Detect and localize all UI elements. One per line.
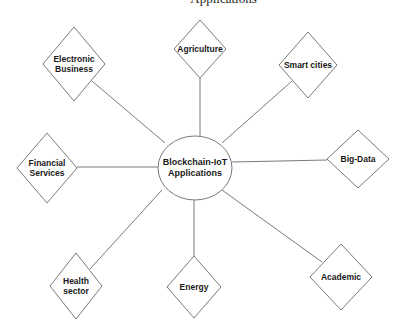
connector-smart-cities xyxy=(222,81,292,143)
node-label-financial-services: Financial Services xyxy=(29,158,66,178)
center-label: Blockchain-IoT Applications xyxy=(163,157,228,179)
connector-academic xyxy=(222,190,322,262)
node-label-energy: Energy xyxy=(180,282,209,292)
node-label-academic: Academic xyxy=(321,272,361,282)
node-label-health-sector: Health sector xyxy=(63,276,89,296)
node-label-big-data: Big-Data xyxy=(341,154,376,164)
connector-health-sector xyxy=(90,190,162,269)
node-label-electronic-business: Electronic Business xyxy=(53,54,94,74)
connector-electronic-business xyxy=(92,81,165,143)
node-label-agriculture: Agriculture xyxy=(177,44,222,54)
connector-big-data xyxy=(232,160,327,162)
node-label-smart-cities: Smart cities xyxy=(284,60,332,70)
